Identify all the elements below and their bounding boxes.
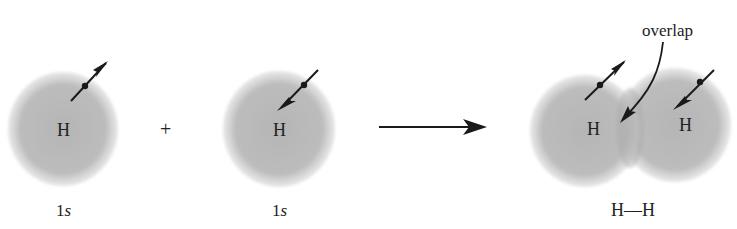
hydrogen-atom-2: H 1s xyxy=(223,70,335,220)
hydrogen-atom-1: H 1s xyxy=(8,61,118,220)
atom-1-orbital-label: 1s xyxy=(56,201,72,220)
atom-1-symbol: H xyxy=(57,120,70,140)
atom-2-orbital-label: 1s xyxy=(272,201,288,220)
atom-2-symbol: H xyxy=(273,120,286,140)
hydrogen-molecule: overlap H H H—H xyxy=(530,21,731,220)
h2-bond-formation-diagram: H 1s + H 1s overlap xyxy=(0,0,737,229)
molecule-atom-right-symbol: H xyxy=(679,115,692,135)
molecule-formula: H—H xyxy=(611,200,655,220)
overlap-label: overlap xyxy=(642,21,693,40)
plus-sign: + xyxy=(160,118,171,140)
reaction-arrow-icon xyxy=(379,119,487,135)
molecule-atom-left-symbol: H xyxy=(587,119,600,139)
